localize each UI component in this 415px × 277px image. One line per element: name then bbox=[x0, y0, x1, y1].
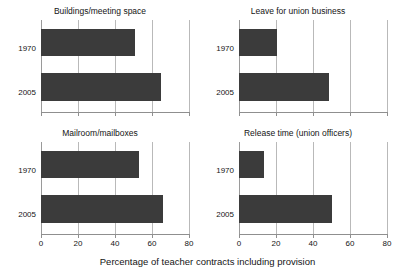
x-tick-80 bbox=[189, 112, 190, 116]
x-tick-80 bbox=[189, 234, 190, 238]
x-tick-60 bbox=[350, 112, 351, 116]
bar-2005 bbox=[239, 73, 329, 101]
x-tick-0 bbox=[41, 234, 42, 238]
x-axis-label: Percentage of teacher contracts includin… bbox=[0, 256, 415, 268]
category-label-1970: 1970 bbox=[206, 44, 234, 53]
x-tick-40 bbox=[115, 112, 116, 116]
panel-title: Buildings/meeting space bbox=[0, 6, 200, 16]
x-tick-40 bbox=[313, 112, 314, 116]
panel-mailroom-mailboxes: Mailroom/mailboxes 0 20 40 60 80 1970 20… bbox=[0, 126, 200, 251]
x-tick-60 bbox=[350, 234, 351, 238]
x-tick-label-0: 0 bbox=[237, 239, 241, 248]
panel-title: Release time (union officers) bbox=[198, 128, 398, 138]
bar-1970 bbox=[239, 151, 264, 178]
panel-release-time-union-officers: Release time (union officers) 0 20 40 60… bbox=[198, 126, 398, 251]
gridline-80 bbox=[189, 142, 190, 234]
x-tick-label-80: 80 bbox=[383, 239, 392, 248]
x-tick-80 bbox=[387, 112, 388, 116]
category-label-1970: 1970 bbox=[8, 166, 36, 175]
category-label-1970: 1970 bbox=[206, 166, 234, 175]
x-tick-0 bbox=[41, 112, 42, 116]
x-tick-20 bbox=[78, 234, 79, 238]
x-tick-20 bbox=[276, 112, 277, 116]
category-label-2005: 2005 bbox=[8, 210, 36, 219]
plot-area: 0 20 40 60 80 bbox=[239, 142, 387, 234]
plot-area: 0 20 40 60 80 bbox=[41, 142, 189, 234]
bar-1970 bbox=[41, 151, 139, 178]
x-tick-label-40: 40 bbox=[111, 239, 120, 248]
x-tick-label-60: 60 bbox=[346, 239, 355, 248]
x-tick-label-40: 40 bbox=[309, 239, 318, 248]
panel-leave-for-union-business: Leave for union business 1970 2005 bbox=[198, 4, 398, 129]
small-multiples-bar-chart: Buildings/meeting space 1970 2005 Leave … bbox=[0, 0, 415, 277]
x-tick-40 bbox=[313, 234, 314, 238]
x-tick-label-20: 20 bbox=[74, 239, 83, 248]
x-tick-20 bbox=[276, 234, 277, 238]
x-tick-label-0: 0 bbox=[39, 239, 43, 248]
gridline-80 bbox=[189, 20, 190, 112]
x-tick-0 bbox=[239, 234, 240, 238]
x-tick-60 bbox=[152, 112, 153, 116]
plot-area bbox=[41, 20, 189, 112]
panel-buildings-meeting-space: Buildings/meeting space 1970 2005 bbox=[0, 4, 200, 129]
panel-title: Leave for union business bbox=[198, 6, 398, 16]
category-label-2005: 2005 bbox=[8, 88, 36, 97]
category-label-2005: 2005 bbox=[206, 88, 234, 97]
x-tick-40 bbox=[115, 234, 116, 238]
bar-2005 bbox=[239, 195, 332, 223]
x-tick-0 bbox=[239, 112, 240, 116]
gridline-60 bbox=[350, 142, 351, 234]
bar-1970 bbox=[239, 29, 277, 56]
x-tick-80 bbox=[387, 234, 388, 238]
category-label-1970: 1970 bbox=[8, 44, 36, 53]
category-label-2005: 2005 bbox=[206, 210, 234, 219]
bar-2005 bbox=[41, 195, 163, 223]
gridline-60 bbox=[350, 20, 351, 112]
bar-2005 bbox=[41, 73, 161, 101]
panel-title: Mailroom/mailboxes bbox=[0, 128, 200, 138]
plot-area bbox=[239, 20, 387, 112]
bar-1970 bbox=[41, 29, 135, 56]
x-tick-label-20: 20 bbox=[272, 239, 281, 248]
gridline-80 bbox=[387, 142, 388, 234]
x-tick-label-80: 80 bbox=[185, 239, 194, 248]
x-tick-20 bbox=[78, 112, 79, 116]
x-tick-60 bbox=[152, 234, 153, 238]
x-tick-label-60: 60 bbox=[148, 239, 157, 248]
gridline-80 bbox=[387, 20, 388, 112]
